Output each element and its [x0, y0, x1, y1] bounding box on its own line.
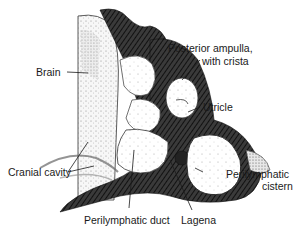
- label-perilymphatic-cistern-line2: cistern: [262, 180, 293, 192]
- label-brain: Brain: [36, 66, 61, 78]
- label-posterior-ampulla-line2: with crista: [202, 55, 249, 67]
- posterior-ampulla: [166, 78, 198, 118]
- label-lagena: Lagena: [181, 214, 216, 226]
- label-cranial-cavity: Cranial cavity: [8, 166, 71, 178]
- label-posterior-ampulla: Posterior ampulla,: [168, 42, 253, 54]
- label-perilymphatic-cistern: Perilymphatic: [226, 168, 289, 180]
- diagram-illustration: [0, 0, 296, 236]
- inner-ear-diagram: Brain Posterior ampulla, with crista Utr…: [0, 0, 296, 236]
- label-perilymphatic-duct: Perilymphatic duct: [84, 214, 170, 226]
- label-utricle: Utricle: [203, 101, 233, 113]
